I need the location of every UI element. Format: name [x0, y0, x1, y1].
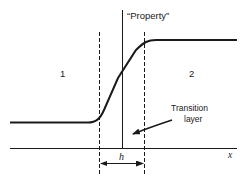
transition-layer-diagram: “Property” 1 2 Transition layer h x: [0, 0, 245, 179]
property-axis-label: “Property”: [127, 10, 169, 21]
transition-layer-label-line2: layer: [184, 114, 203, 124]
x-axis-label: x: [227, 150, 233, 160]
width-label: h: [119, 151, 124, 162]
width-dimension-left-arrowhead: [100, 161, 107, 166]
transition-pointer-arrow: [133, 120, 172, 134]
transition-layer-label-line1: Transition: [171, 103, 208, 113]
region-1-label: 1: [60, 68, 65, 79]
region-2-label: 2: [189, 68, 194, 79]
